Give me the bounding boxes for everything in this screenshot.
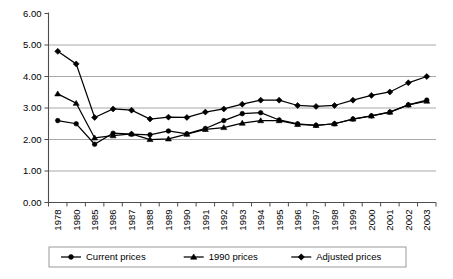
x-tick-label: 1987 — [126, 210, 137, 231]
x-tick-label: 2003 — [421, 210, 432, 231]
y-tick-label: 0.00 — [23, 197, 42, 208]
data-point-marker — [405, 80, 411, 86]
x-tick-label: 1994 — [255, 210, 266, 231]
data-point-marker — [221, 118, 226, 123]
chart-legend: Current prices1990 pricesAdjusted prices — [49, 247, 406, 267]
series-group — [55, 48, 430, 146]
x-tick-label: 1989 — [163, 210, 174, 231]
data-point-marker — [258, 110, 263, 115]
x-tick-label: 2001 — [384, 210, 395, 231]
y-axis-group — [45, 13, 49, 203]
y-tick-labels-group: 0.001.002.003.004.005.006.00 — [23, 8, 42, 208]
data-point-marker — [166, 129, 171, 134]
data-point-marker — [74, 121, 79, 126]
gridlines-group — [49, 45, 437, 171]
data-point-marker — [147, 116, 153, 122]
data-point-marker — [55, 91, 61, 96]
data-point-marker — [92, 114, 98, 120]
legend-label: Adjusted prices — [316, 251, 381, 262]
data-point-marker — [276, 97, 282, 103]
data-point-marker — [110, 106, 116, 112]
x-tick-label: 2002 — [403, 210, 414, 231]
data-point-marker — [69, 255, 74, 260]
data-point-marker — [92, 142, 97, 147]
x-tick-label: 1997 — [310, 210, 321, 231]
data-point-marker — [221, 106, 227, 112]
x-tick-label: 1991 — [200, 210, 211, 231]
x-tick-label: 1995 — [274, 210, 285, 231]
data-point-marker — [313, 103, 319, 109]
data-point-marker — [387, 89, 393, 95]
x-tick-label: 2000 — [366, 210, 377, 231]
line-chart: 0.001.002.003.004.005.006.00 19781980198… — [0, 0, 453, 279]
y-tick-label: 5.00 — [23, 39, 42, 50]
x-tick-label: 1978 — [52, 210, 63, 231]
data-point-marker — [55, 118, 60, 123]
y-tick-label: 2.00 — [23, 134, 42, 145]
data-point-marker — [258, 97, 264, 103]
x-tick-label: 1992 — [218, 210, 229, 231]
data-point-marker — [184, 114, 190, 120]
x-tick-label: 1990 — [181, 210, 192, 231]
x-axis-group — [49, 203, 437, 207]
x-tick-label: 1996 — [292, 210, 303, 231]
x-tick-label: 1993 — [237, 210, 248, 231]
legend-label: 1990 prices — [209, 251, 258, 262]
x-tick-labels-group: 1978198019851986198719881989199019911992… — [52, 210, 432, 231]
data-point-marker — [165, 114, 171, 120]
data-point-marker — [424, 74, 430, 80]
data-point-marker — [368, 92, 374, 98]
data-point-marker — [239, 101, 245, 107]
x-tick-label: 1985 — [89, 210, 100, 231]
x-tick-label: 1999 — [347, 210, 358, 231]
legend-label: Current prices — [86, 251, 146, 262]
y-tick-label: 4.00 — [23, 71, 42, 82]
y-tick-label: 3.00 — [23, 102, 42, 113]
x-tick-label: 1988 — [144, 210, 155, 231]
x-tick-label: 1980 — [71, 210, 82, 231]
x-tick-label: 1998 — [329, 210, 340, 231]
series-adjusted-prices — [55, 48, 430, 122]
x-tick-label: 1986 — [107, 210, 118, 231]
data-point-marker — [350, 97, 356, 103]
data-point-marker — [202, 109, 208, 115]
chart-canvas: 0.001.002.003.004.005.006.00 19781980198… — [0, 0, 453, 279]
y-tick-label: 1.00 — [23, 165, 42, 176]
data-point-marker — [240, 111, 245, 116]
y-tick-label: 6.00 — [23, 8, 42, 19]
